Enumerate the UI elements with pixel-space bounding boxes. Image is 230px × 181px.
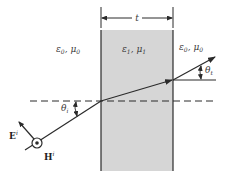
- slab-refraction-diagram: t ε0, μ0 ε1, μ1 ε0, μ0 θt θi Hi Ei: [0, 0, 230, 181]
- h-field-label: Hi: [44, 150, 55, 162]
- thickness-dimension: t: [101, 7, 173, 28]
- incident-angle-marker: θi: [61, 102, 77, 116]
- left-medium-label: ε0, μ0: [56, 44, 80, 55]
- thickness-label: t: [135, 13, 139, 23]
- right-medium-label: ε0, μ0: [179, 42, 203, 53]
- e-field-label: Ei: [9, 129, 18, 141]
- transmitted-angle-label: θt: [205, 65, 213, 76]
- e-field-arrow: [19, 122, 34, 139]
- incident-angle-label: θi: [61, 103, 68, 114]
- h-field-symbol: [32, 138, 42, 148]
- transmitted-angle-marker: θt: [200, 65, 213, 79]
